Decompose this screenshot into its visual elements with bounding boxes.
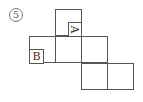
square-bottom-right bbox=[107, 63, 134, 90]
face-label-b: B bbox=[29, 49, 44, 64]
figure-number-text: 5 bbox=[13, 9, 19, 20]
face-label-a-text: A bbox=[68, 26, 81, 34]
figure-number: 5 bbox=[9, 8, 23, 22]
square-bottom-left bbox=[81, 63, 108, 90]
face-label-a: A bbox=[68, 22, 82, 37]
face-label-b-text: B bbox=[32, 50, 40, 63]
square-mid-center bbox=[55, 36, 82, 63]
square-mid-right bbox=[81, 36, 108, 63]
